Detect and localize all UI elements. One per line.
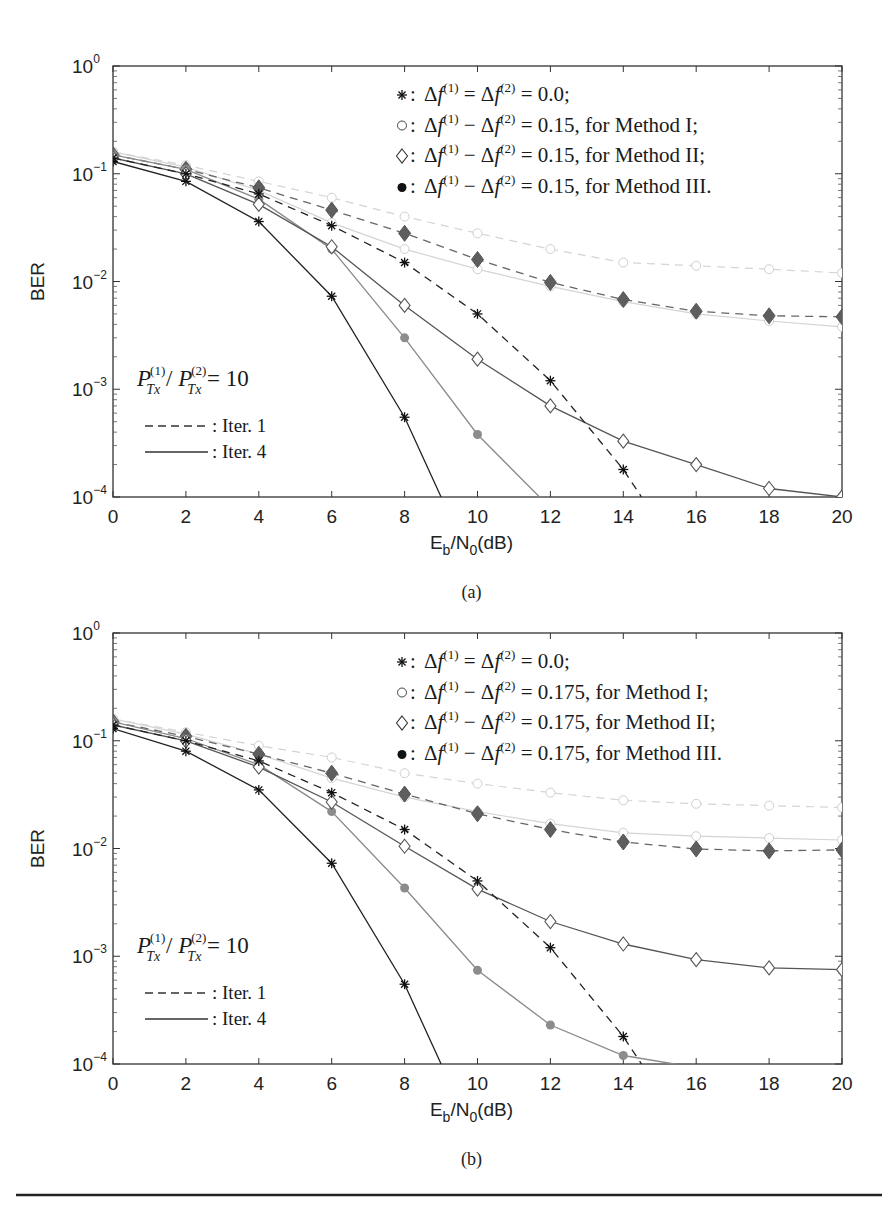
- x-tick-label: 16: [686, 506, 707, 527]
- circle-marker-icon: [327, 753, 336, 762]
- filled-circle-legend-marker-icon: [398, 183, 407, 192]
- series-line: [113, 722, 674, 1064]
- svg-text::: :: [410, 649, 416, 673]
- diamond-marker-icon: [326, 240, 337, 254]
- circle-marker-icon: [838, 803, 847, 812]
- circle-marker-icon: [398, 121, 407, 130]
- iteration-legend-label: : Iter. 4: [212, 1008, 267, 1029]
- y-tick-label: 10−4: [72, 1050, 107, 1075]
- diamond-marker-icon: [397, 716, 408, 730]
- filled-diamond-marker-icon: [399, 225, 411, 241]
- filled-circle-marker-icon: [400, 883, 409, 892]
- diamond-marker-icon: [397, 149, 408, 163]
- legend-label: Δf(1) − Δf(2) = 0.175, for Method III.: [424, 739, 722, 765]
- legend-entry: :Δf(1) − Δf(2) = 0.15, for Method II;: [397, 141, 706, 167]
- series-line: [113, 155, 540, 497]
- star-marker-icon: [473, 876, 483, 886]
- diamond-marker-icon: [691, 953, 702, 967]
- series-line: [113, 725, 642, 1064]
- series-line: [113, 729, 441, 1065]
- star-marker-icon: [254, 189, 264, 199]
- star-marker-icon: [618, 1031, 628, 1041]
- svg-text::: :: [410, 174, 416, 198]
- circle-marker-icon: [765, 801, 774, 810]
- x-tick-label: 8: [399, 1073, 410, 1094]
- legend-entry: :Δf(1) − Δf(2) = 0.15, for Method I;: [398, 111, 699, 137]
- star-marker-icon: [545, 943, 555, 953]
- power-ratio-annotation: P(1)Tx / P(2)Tx = 10: [136, 930, 249, 964]
- star-marker-icon: [254, 785, 264, 795]
- star-marker-icon: [473, 309, 483, 319]
- y-axis-label: BER: [27, 829, 48, 868]
- star-marker-icon: [400, 979, 410, 989]
- x-tick-label: 16: [686, 1073, 707, 1094]
- star-marker-icon: [327, 291, 337, 301]
- diamond-marker-icon: [764, 481, 775, 495]
- filled-diamond-marker-icon: [690, 303, 702, 319]
- filled-diamond-marker-icon: [326, 202, 338, 218]
- x-tick-label: 18: [759, 1073, 780, 1094]
- x-axis-label: Eb/N0(dB): [430, 532, 513, 558]
- star-marker-icon: [108, 723, 118, 733]
- series-line: [113, 158, 642, 497]
- filled-diamond-marker-icon: [472, 806, 484, 822]
- y-tick-label: 10−2: [72, 835, 107, 860]
- filled-diamond-marker-icon: [836, 842, 848, 858]
- x-tick-label: 12: [540, 1073, 561, 1094]
- diamond-marker-icon: [837, 963, 848, 977]
- circle-marker-icon: [400, 212, 409, 221]
- circle-marker-icon: [546, 788, 555, 797]
- filled-diamond-marker-icon: [472, 252, 484, 268]
- circle-marker-icon: [546, 245, 555, 254]
- star-marker-icon: [327, 788, 337, 798]
- legend-entry: :Δf(1) = Δf(2) = 0.0;: [397, 647, 570, 673]
- legend-label: Δf(1) − Δf(2) = 0.15, for Method III.: [424, 172, 712, 198]
- legend-entry: :Δf(1) − Δf(2) = 0.175, for Method III.: [398, 739, 723, 765]
- diamond-marker-icon: [837, 490, 848, 504]
- diamond-marker-icon: [764, 961, 775, 975]
- x-tick-label: 14: [613, 506, 635, 527]
- x-tick-label: 10: [467, 1073, 488, 1094]
- filled-circle-marker-icon: [473, 966, 482, 975]
- svg-text::: :: [410, 680, 416, 704]
- plot-b: 0246810121416182010010−110−210−310−4BERE…: [27, 619, 853, 1170]
- y-tick-label: 10−2: [72, 268, 107, 293]
- circle-marker-icon: [692, 261, 701, 270]
- filled-circle-marker-icon: [619, 1051, 628, 1060]
- star-marker-icon: [254, 217, 264, 227]
- filled-circle-marker-icon: [546, 1021, 555, 1030]
- circle-marker-icon: [619, 258, 628, 267]
- filled-diamond-marker-icon: [617, 834, 629, 850]
- diamond-marker-icon: [618, 434, 629, 448]
- diamond-marker-icon: [399, 298, 410, 312]
- x-tick-label: 0: [108, 506, 119, 527]
- circle-marker-icon: [765, 834, 774, 843]
- iteration-legend: : Iter. 1: Iter. 4: [145, 415, 267, 462]
- legend-entry: :Δf(1) − Δf(2) = 0.15, for Method III.: [398, 172, 712, 198]
- y-tick-label: 10−1: [72, 160, 107, 185]
- legend-entry: :Δf(1) = Δf(2) = 0.0;: [397, 80, 570, 106]
- star-marker-icon: [108, 156, 118, 166]
- star-marker-icon: [181, 746, 191, 756]
- circle-marker-icon: [400, 769, 409, 778]
- filled-circle-marker-icon: [400, 333, 409, 342]
- figure-caption: (a): [462, 582, 482, 603]
- filled-circle-marker-icon: [473, 430, 482, 439]
- y-tick-label: 10−3: [72, 942, 107, 967]
- legend: :Δf(1) = Δf(2) = 0.0;:Δf(1) − Δf(2) = 0.…: [397, 80, 712, 198]
- circle-marker-icon: [400, 245, 409, 254]
- filled-diamond-marker-icon: [763, 843, 775, 859]
- diamond-marker-icon: [618, 937, 629, 951]
- circle-marker-icon: [473, 779, 482, 788]
- x-tick-label: 8: [399, 506, 410, 527]
- filled-diamond-marker-icon: [617, 292, 629, 308]
- legend-entry: :Δf(1) − Δf(2) = 0.175, for Method II;: [397, 708, 716, 734]
- star-marker-icon: [400, 825, 410, 835]
- circle-marker-icon: [327, 193, 336, 202]
- star-marker-icon: [254, 756, 264, 766]
- star-marker-icon: [181, 736, 191, 746]
- x-tick-label: 0: [108, 1073, 119, 1094]
- iteration-legend-label: : Iter. 1: [212, 415, 266, 436]
- legend-label: Δf(1) − Δf(2) = 0.175, for Method II;: [424, 708, 716, 734]
- x-tick-label: 2: [181, 506, 192, 527]
